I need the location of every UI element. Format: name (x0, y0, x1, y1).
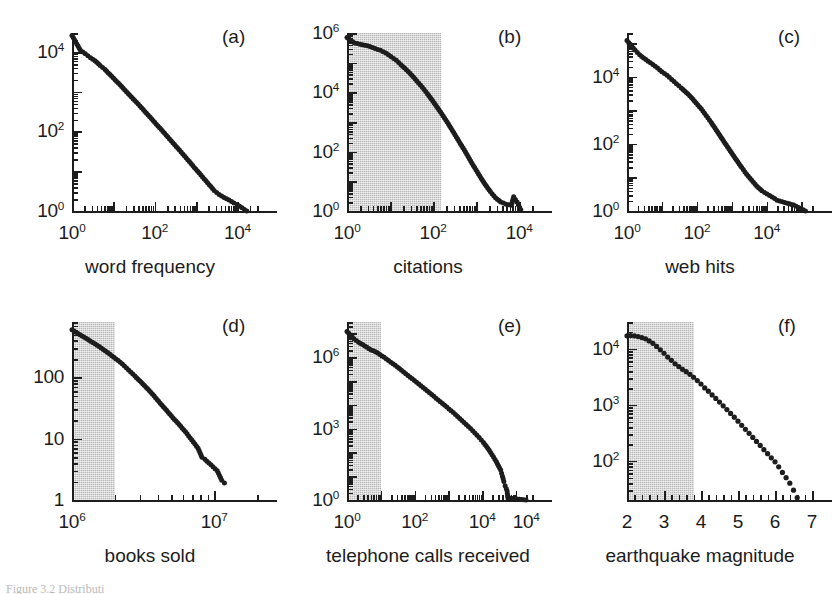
figure-caption: Figure 3.2 Distributi (6, 582, 104, 594)
